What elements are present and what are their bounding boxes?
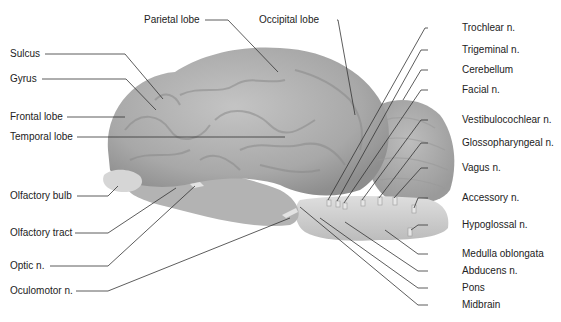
label-pons: Pons <box>462 282 485 294</box>
label-vagus-n: Vagus n. <box>462 162 501 174</box>
label-olfactory-bulb: Olfactory bulb <box>10 190 72 202</box>
label-cerebellum: Cerebellum <box>462 64 513 76</box>
label-sulcus: Sulcus <box>10 48 40 60</box>
label-medulla-oblongata: Medulla oblongata <box>462 248 544 260</box>
label-occipital-lobe: Occipital lobe <box>259 14 319 26</box>
label-trochlear-n: Trochlear n. <box>462 22 515 34</box>
label-accessory-n: Accessory n. <box>462 192 519 204</box>
label-parietal-lobe: Parietal lobe <box>144 14 200 26</box>
label-optic-n: Optic n. <box>10 260 44 272</box>
label-oculomotor-n: Oculomotor n. <box>10 285 73 297</box>
brainstem-shape <box>295 196 448 241</box>
label-hypoglossal-n: Hypoglossal n. <box>462 219 528 231</box>
label-glossopharyngeal-n: Glossopharyngeal n. <box>462 137 554 149</box>
label-vestibulocochlear-n: Vestibulocochlear n. <box>462 114 552 126</box>
brain-diagram: Sulcus Gyrus Frontal lobe Temporal lobe … <box>0 0 561 322</box>
label-gyrus: Gyrus <box>10 73 37 85</box>
label-frontal-lobe: Frontal lobe <box>10 111 63 123</box>
label-facial-n: Facial n. <box>462 84 500 96</box>
label-olfactory-tract: Olfactory tract <box>10 227 72 239</box>
label-trigeminal-n: Trigeminal n. <box>462 44 519 56</box>
label-abducens-n: Abducens n. <box>462 265 518 277</box>
label-temporal-lobe: Temporal lobe <box>10 131 73 143</box>
label-midbrain: Midbrain <box>462 299 500 311</box>
